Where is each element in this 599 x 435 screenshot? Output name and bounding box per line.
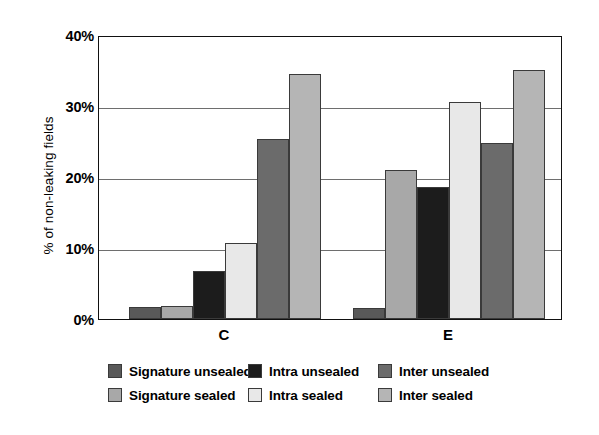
bar <box>481 143 513 319</box>
bar <box>417 187 449 319</box>
legend-swatch-icon <box>378 364 392 378</box>
legend-item: Signature unsealed <box>108 360 248 382</box>
y-axis-tick-label: 0% <box>42 312 94 328</box>
plot-area <box>98 36 562 320</box>
x-axis-category-label: E <box>443 326 453 343</box>
bar <box>353 308 385 319</box>
legend-item: Signature sealed <box>108 384 248 406</box>
bar <box>225 243 257 319</box>
legend-item-label: Inter unsealed <box>399 364 489 379</box>
y-axis-tick-label: 30% <box>42 99 94 115</box>
bar <box>513 70 545 319</box>
legend-swatch-icon <box>378 388 392 402</box>
y-axis-tick-label: 10% <box>42 241 94 257</box>
legend-swatch-icon <box>248 388 262 402</box>
legend-item-label: Signature sealed <box>129 388 235 403</box>
y-axis-tick-labels: 0%10%20%30%40% <box>36 36 94 320</box>
bar <box>161 306 193 319</box>
bar <box>385 170 417 319</box>
legend-item: Intra sealed <box>248 384 378 406</box>
legend-item-label: Intra unsealed <box>269 364 359 379</box>
legend-item-label: Intra sealed <box>269 388 343 403</box>
gridline <box>99 108 561 109</box>
x-axis-category-label: C <box>219 326 230 343</box>
legend-item: Inter unsealed <box>378 360 508 382</box>
y-axis-tick-label: 20% <box>42 170 94 186</box>
legend-swatch-icon <box>108 364 122 378</box>
legend-item: Intra unsealed <box>248 360 378 382</box>
y-axis-tick-label: 40% <box>42 28 94 44</box>
bar <box>289 74 321 319</box>
legend-item-label: Inter sealed <box>399 388 473 403</box>
bar <box>129 307 161 319</box>
legend-swatch-icon <box>248 364 262 378</box>
bar <box>193 271 225 319</box>
bar <box>449 102 481 319</box>
legend-swatch-icon <box>108 388 122 402</box>
bar <box>257 139 289 319</box>
legend-item: Inter sealed <box>378 384 508 406</box>
chart-legend: Signature unsealedSignature sealedIntra … <box>108 360 508 406</box>
legend-item-label: Signature unsealed <box>129 364 252 379</box>
bar-chart-figure: % of non-leaking fields 0%10%20%30%40% C… <box>0 0 599 435</box>
